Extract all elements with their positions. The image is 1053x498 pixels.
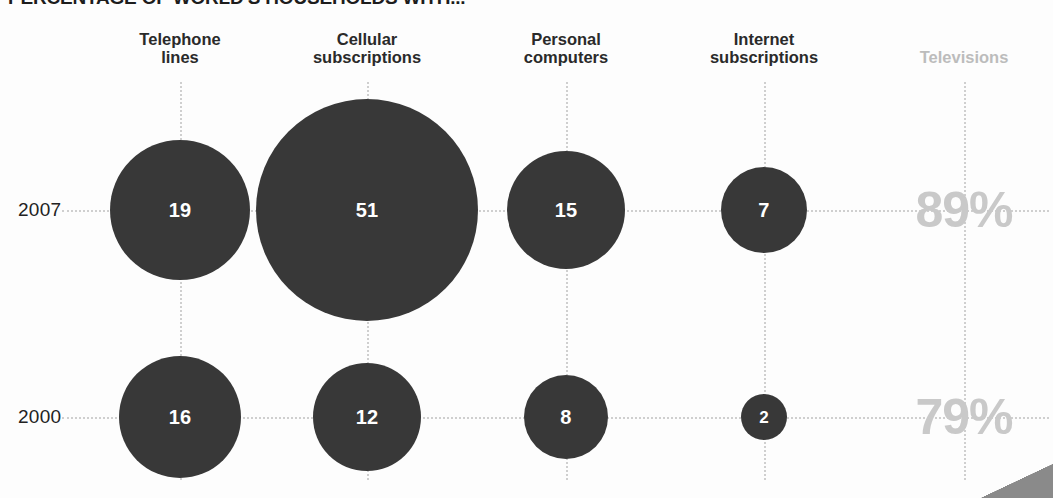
bubble-cellular-subscriptions-2007: 51 [256,99,478,321]
column-header-televisions: Televisions [920,48,1009,66]
bubble-personal-computers-2007: 15 [507,151,625,269]
bubble-value-internet-subscriptions-2000: 2 [759,409,769,426]
column-header-internet-subscriptions: Internet subscriptions [710,30,818,67]
column-header-cellular-subscriptions: Cellular subscriptions [313,30,421,67]
bubble-value-cellular-subscriptions-2007: 51 [356,200,379,220]
bubble-personal-computers-2000: 8 [524,375,608,459]
bubble-cellular-subscriptions-2000: 12 [313,363,421,471]
percent-value-televisions-2007: 89% [915,185,1012,235]
percent-value-televisions-2000: 79% [915,392,1012,442]
bubble-value-telephone-lines-2007: 19 [169,200,192,220]
bubble-chart: PERCENTAGE OF WORLD'S HOUSEHOLDS WITH...… [0,0,1053,498]
column-header-personal-computers: Personal computers [524,30,608,67]
bubble-value-personal-computers-2000: 8 [560,407,571,427]
bubble-internet-subscriptions-2000: 2 [741,394,787,440]
bubble-internet-subscriptions-2007: 7 [721,167,807,253]
bubble-value-cellular-subscriptions-2000: 12 [356,407,379,427]
column-header-telephone-lines: Telephone lines [139,30,220,67]
bubble-telephone-lines-2007: 19 [110,140,250,280]
bubble-value-telephone-lines-2000: 16 [169,407,192,427]
bubble-value-internet-subscriptions-2007: 7 [758,200,769,220]
bubble-telephone-lines-2000: 16 [119,356,241,478]
page-corner-artifact [981,464,1053,498]
row-label-2007: 2007 [18,199,61,221]
page-title: PERCENTAGE OF WORLD'S HOUSEHOLDS WITH... [8,0,465,9]
row-label-2000: 2000 [18,406,61,428]
bubble-value-personal-computers-2007: 15 [555,200,578,220]
